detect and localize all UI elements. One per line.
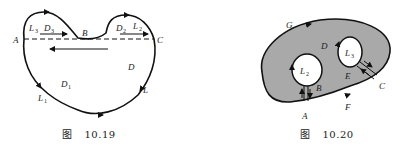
label-A: A xyxy=(12,35,19,45)
caption-10-19: 图10.19 xyxy=(62,126,116,141)
label-D2: D 2 xyxy=(115,23,126,34)
label-G: G xyxy=(286,20,293,30)
label-F: F xyxy=(344,102,351,112)
label-L1: L 1 xyxy=(37,93,47,104)
figure-10-20: G D E B C F A L 2 L 3 图10.20 xyxy=(200,0,400,152)
hole-L2 xyxy=(292,54,322,86)
label-C: C xyxy=(157,35,164,45)
label-L2: L 2 xyxy=(132,21,142,32)
label-L3: L 3 xyxy=(28,23,38,34)
label-D1: D 1 xyxy=(60,79,71,90)
svg-text:2: 2 xyxy=(306,71,309,77)
svg-text:2: 2 xyxy=(123,28,126,34)
svg-text:L: L xyxy=(28,23,34,33)
caption-prefix: 图 xyxy=(62,129,73,140)
label-D3: D 3 xyxy=(43,23,54,34)
caption-10-20: 图10.20 xyxy=(300,126,354,141)
svg-text:L: L xyxy=(37,93,43,103)
arrow-mark-F xyxy=(345,94,350,96)
svg-text:3: 3 xyxy=(51,28,54,34)
svg-text:L: L xyxy=(344,48,350,58)
label-D: D xyxy=(320,41,328,51)
svg-text:3: 3 xyxy=(35,28,38,34)
svg-text:D: D xyxy=(43,23,51,33)
label-A: A xyxy=(301,111,308,121)
svg-text:2: 2 xyxy=(139,26,142,32)
label-B: B xyxy=(82,28,88,38)
svg-text:L: L xyxy=(132,21,138,31)
svg-text:L: L xyxy=(299,66,305,76)
label-C: C xyxy=(379,81,386,91)
label-D: D xyxy=(127,62,135,72)
label-L: L xyxy=(142,85,148,95)
figure-10-19: A B C D L D 1 L 1 L 3 D 3 D 2 L 2 图10.19 xyxy=(0,0,200,152)
caption-number: 10.20 xyxy=(323,129,354,140)
svg-text:3: 3 xyxy=(351,53,354,59)
svg-text:1: 1 xyxy=(44,98,47,104)
outer-boundary xyxy=(262,19,391,102)
label-B: B xyxy=(316,83,322,93)
svg-text:D: D xyxy=(115,23,123,33)
caption-prefix: 图 xyxy=(300,129,311,140)
svg-text:D: D xyxy=(60,79,68,89)
caption-number: 10.19 xyxy=(85,129,116,140)
svg-text:1: 1 xyxy=(68,84,71,90)
label-E: E xyxy=(344,71,351,81)
